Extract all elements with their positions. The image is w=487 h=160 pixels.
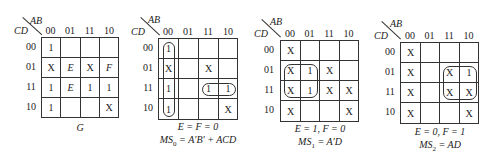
row-header: 10 bbox=[262, 104, 276, 115]
expr-prefix: MS bbox=[160, 134, 173, 145]
cell bbox=[301, 41, 320, 61]
grouping-loop bbox=[202, 83, 236, 96]
cell: X bbox=[340, 101, 358, 121]
cell: X bbox=[219, 99, 237, 119]
cell: X bbox=[340, 81, 358, 101]
corner-col-var: AB bbox=[148, 14, 160, 25]
cell bbox=[61, 98, 81, 117]
cell bbox=[81, 38, 100, 58]
cell bbox=[421, 83, 440, 103]
corner-col-var: AB bbox=[270, 16, 282, 27]
col-header: 10 bbox=[218, 26, 238, 37]
grouping-loop bbox=[163, 42, 175, 117]
col-header: 01 bbox=[178, 26, 198, 37]
map-expression: MS2 = AD bbox=[390, 139, 487, 153]
cell: X bbox=[42, 58, 61, 78]
cell bbox=[340, 61, 358, 81]
cell bbox=[81, 98, 100, 117]
map-caption: G bbox=[41, 122, 119, 133]
row-header: 10 bbox=[24, 101, 38, 112]
col-header: 10 bbox=[459, 30, 478, 41]
col-header: 00 bbox=[158, 26, 178, 37]
cell bbox=[100, 38, 118, 58]
kmap-grid: X X 1 X X 1 X X X X bbox=[280, 40, 359, 122]
map-expression: MS1 = A'D bbox=[270, 136, 370, 150]
row-header: 11 bbox=[262, 84, 276, 95]
corner-row-var: CD bbox=[131, 26, 145, 37]
cell: E bbox=[61, 78, 81, 98]
col-header: 11 bbox=[319, 28, 339, 39]
cell bbox=[199, 39, 219, 59]
corner-row-var: CD bbox=[374, 30, 388, 41]
col-header: 00 bbox=[400, 30, 420, 41]
cell bbox=[61, 38, 81, 58]
cell bbox=[421, 43, 440, 63]
cell bbox=[440, 103, 460, 123]
cell: F bbox=[100, 58, 118, 78]
cell: E bbox=[61, 58, 81, 78]
cell bbox=[421, 63, 440, 83]
cell: X bbox=[281, 41, 301, 61]
col-header: 11 bbox=[439, 30, 459, 41]
cell bbox=[179, 59, 199, 79]
col-header: 00 bbox=[280, 28, 300, 39]
corner-row-var: CD bbox=[254, 28, 268, 39]
cell bbox=[219, 39, 237, 59]
map-condition: E = F = 0 bbox=[158, 121, 238, 132]
cell: X bbox=[199, 59, 219, 79]
cell: X bbox=[401, 83, 421, 103]
row-header: 10 bbox=[141, 102, 155, 113]
cell: X bbox=[460, 103, 478, 123]
col-header: 10 bbox=[99, 25, 119, 36]
row-header: 00 bbox=[141, 42, 155, 53]
row-header: 01 bbox=[383, 66, 397, 77]
row-header: 01 bbox=[24, 61, 38, 72]
cell: X bbox=[320, 61, 340, 81]
corner-col-var: AB bbox=[390, 18, 402, 29]
cell bbox=[179, 99, 199, 119]
cell bbox=[320, 41, 340, 61]
map-condition: E = 1, F = 0 bbox=[280, 123, 360, 134]
cell: 1 bbox=[42, 38, 61, 58]
cell bbox=[421, 103, 440, 123]
cell: X bbox=[281, 101, 301, 121]
cell: X bbox=[320, 81, 340, 101]
cell: 1 bbox=[100, 78, 118, 98]
cell: X bbox=[401, 43, 421, 63]
corner-row-var: CD bbox=[14, 25, 28, 36]
row-header: 00 bbox=[383, 46, 397, 57]
col-header: 11 bbox=[80, 25, 99, 36]
cell: 1 bbox=[81, 78, 100, 98]
row-header: 11 bbox=[24, 81, 38, 92]
row-header: 00 bbox=[24, 41, 38, 52]
row-header: 11 bbox=[383, 86, 397, 97]
col-header: 11 bbox=[198, 26, 218, 37]
col-header: 01 bbox=[60, 25, 80, 36]
cell bbox=[440, 43, 460, 63]
row-header: 10 bbox=[383, 106, 397, 117]
kmap-grid: 1 X X 1 1 1 1 X bbox=[158, 38, 238, 120]
expr-rest: = AD bbox=[436, 139, 461, 150]
col-header: 01 bbox=[420, 30, 439, 41]
grouping-loop bbox=[443, 66, 477, 100]
cell: X bbox=[81, 58, 100, 78]
cell bbox=[199, 99, 219, 119]
cell: X bbox=[100, 98, 118, 117]
expr-prefix: MS bbox=[419, 139, 432, 150]
row-header: 11 bbox=[141, 82, 155, 93]
expr-rest: = A'D bbox=[315, 136, 342, 147]
cell bbox=[460, 43, 478, 63]
cell bbox=[301, 101, 320, 121]
cell bbox=[340, 41, 358, 61]
row-header: 01 bbox=[141, 62, 155, 73]
row-header: 00 bbox=[262, 44, 276, 55]
col-header: 00 bbox=[41, 25, 60, 36]
kmap-grid: 1 X E X F 1 E 1 1 1 X bbox=[41, 37, 119, 118]
cell bbox=[320, 101, 340, 121]
col-header: 10 bbox=[339, 28, 358, 39]
cell: 1 bbox=[42, 78, 61, 98]
cell bbox=[179, 79, 199, 99]
cell: X bbox=[401, 63, 421, 83]
cell bbox=[219, 59, 237, 79]
cell: 1 bbox=[42, 98, 61, 117]
